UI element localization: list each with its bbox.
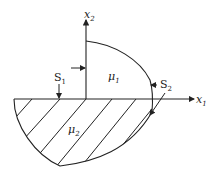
mu2-label: μ2 (68, 123, 80, 138)
s2-label: S2 (160, 78, 172, 93)
hatch-pattern (0, 99, 184, 168)
domain-diagram: x2 x1 S1 S2 μ1 μ2 (0, 0, 220, 178)
mu1-label: μ1 (108, 70, 120, 85)
x2-axis-label: x2 (84, 8, 95, 23)
lower-region-boundary (14, 99, 152, 166)
x1-axis-label: x1 (196, 93, 207, 108)
s1-label: S1 (54, 71, 66, 86)
